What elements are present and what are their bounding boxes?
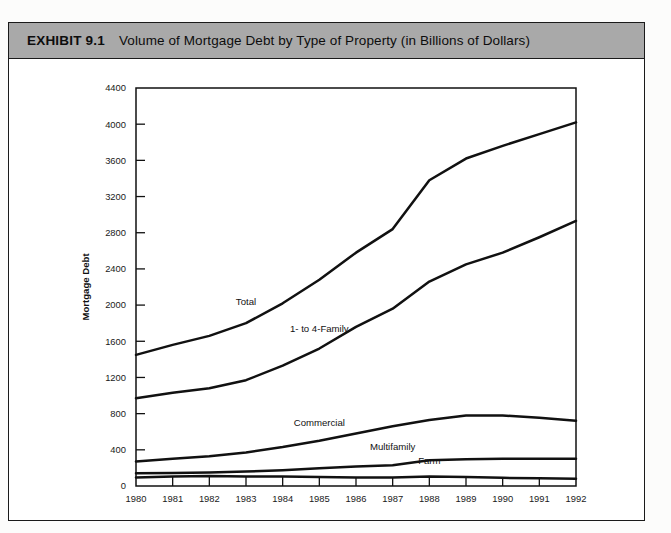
exhibit-number: EXHIBIT 9.1: [27, 33, 105, 48]
x-tick-label-1980: 1980: [126, 493, 147, 504]
series-label-total: Total: [236, 296, 256, 307]
y-tick-label-0: 0: [121, 480, 126, 491]
x-axis-ticks: 1980198119821983198419851986198719881989…: [126, 477, 587, 504]
x-tick-label-1983: 1983: [236, 493, 257, 504]
series-line-farm: [136, 476, 576, 479]
series-line-commercial: [136, 415, 576, 461]
x-tick-label-1989: 1989: [456, 493, 477, 504]
series-label-farm: Farm: [418, 455, 440, 466]
series-annotations: Total1- to 4-FamilyCommercialMultifamily…: [236, 296, 441, 466]
x-tick-label-1992: 1992: [566, 493, 587, 504]
y-tick-label-4000: 4000: [105, 119, 126, 130]
plot-frame: [136, 88, 576, 486]
y-tick-label-400: 400: [110, 444, 126, 455]
y-axis-ticks: 0400800120016002000240028003200360040004…: [105, 82, 145, 491]
x-tick-label-1982: 1982: [199, 493, 220, 504]
series-line-multifamily: [136, 459, 576, 473]
series-label-multifamily: Multifamily: [370, 441, 416, 452]
exhibit-title: Volume of Mortgage Debt by Type of Prope…: [119, 33, 530, 48]
y-tick-label-4400: 4400: [105, 82, 126, 93]
y-axis-title: Mortgage Debt: [80, 253, 91, 321]
chart-area: 0400800120016002000240028003200360040004…: [9, 59, 644, 521]
line-chart: 0400800120016002000240028003200360040004…: [9, 59, 644, 521]
y-tick-label-3200: 3200: [105, 191, 126, 202]
x-tick-label-1988: 1988: [419, 493, 440, 504]
x-tick-label-1987: 1987: [382, 493, 403, 504]
series-label-1-to-4-family: 1- to 4-Family: [290, 323, 349, 334]
series-lines: [136, 122, 576, 478]
exhibit-card: EXHIBIT 9.1 Volume of Mortgage Debt by T…: [8, 22, 645, 521]
y-tick-label-2400: 2400: [105, 263, 126, 274]
series-label-commercial: Commercial: [294, 417, 345, 428]
y-tick-label-800: 800: [110, 408, 126, 419]
y-tick-label-3600: 3600: [105, 155, 126, 166]
page-canvas: EXHIBIT 9.1 Volume of Mortgage Debt by T…: [0, 0, 671, 533]
y-tick-label-2000: 2000: [105, 299, 126, 310]
y-tick-label-2800: 2800: [105, 227, 126, 238]
series-line-1-to-4-family: [136, 221, 576, 398]
x-tick-label-1991: 1991: [529, 493, 550, 504]
y-tick-label-1600: 1600: [105, 336, 126, 347]
x-tick-label-1986: 1986: [346, 493, 367, 504]
x-tick-label-1984: 1984: [272, 493, 293, 504]
exhibit-header: EXHIBIT 9.1 Volume of Mortgage Debt by T…: [9, 23, 644, 59]
x-tick-label-1985: 1985: [309, 493, 330, 504]
series-line-total: [136, 122, 576, 354]
y-tick-label-1200: 1200: [105, 372, 126, 383]
x-tick-label-1981: 1981: [162, 493, 183, 504]
x-tick-label-1990: 1990: [492, 493, 513, 504]
